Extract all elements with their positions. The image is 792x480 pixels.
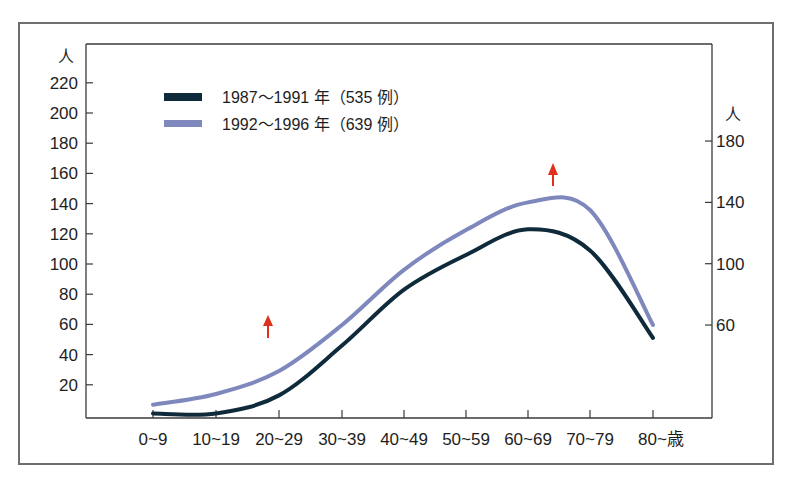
series-layer <box>153 197 653 415</box>
left-tick-label: 220 <box>50 74 78 93</box>
right-axis-unit: 人 <box>725 105 741 124</box>
x-tick-label: 0~9 <box>139 430 168 449</box>
x-tick-label: 50~59 <box>442 430 490 449</box>
right-tick-label: 100 <box>716 255 744 274</box>
arrow-up-icon <box>548 163 558 186</box>
legend-swatch-light <box>164 120 202 127</box>
left-axis-unit: 人 <box>58 47 74 66</box>
series-line-1992-1996 <box>153 197 653 404</box>
left-tick-label: 140 <box>50 195 78 214</box>
legend: 1987〜1991 年（535 例） 1992〜1996 年（639 例） <box>164 89 409 133</box>
x-tick-label: 30~39 <box>318 430 366 449</box>
left-tick-label: 200 <box>50 104 78 123</box>
legend-swatch-dark <box>164 93 202 101</box>
x-axis: 0~910~1920~2930~3940~4950~5960~6970~7980… <box>139 410 684 449</box>
left-tick-label: 20 <box>59 376 78 395</box>
x-tick-label: 40~49 <box>380 430 428 449</box>
line-chart: 人 20406080100120140160180200220 人 601001… <box>0 0 792 480</box>
right-y-axis: 人 60100140180 <box>705 105 744 335</box>
x-tick-label: 60~69 <box>504 430 552 449</box>
x-tick-label: 70~79 <box>566 430 614 449</box>
right-tick-label: 180 <box>716 132 744 151</box>
left-tick-label: 100 <box>50 255 78 274</box>
left-tick-label: 60 <box>59 315 78 334</box>
left-tick-label: 160 <box>50 164 78 183</box>
legend-label: 1987〜1991 年（535 例） <box>222 89 409 106</box>
x-tick-label: 20~29 <box>255 430 303 449</box>
arrow-up-icon <box>263 315 273 338</box>
legend-item-1987-1991: 1987〜1991 年（535 例） <box>164 89 409 106</box>
legend-item-1992-1996: 1992〜1996 年（639 例） <box>164 116 409 133</box>
x-tick-label: 10~19 <box>192 430 240 449</box>
left-tick-label: 80 <box>59 285 78 304</box>
left-tick-label: 120 <box>50 225 78 244</box>
right-tick-label: 140 <box>716 193 744 212</box>
left-tick-label: 180 <box>50 134 78 153</box>
series-line-1987-1991 <box>153 229 653 415</box>
legend-label: 1992〜1996 年（639 例） <box>222 116 409 133</box>
left-tick-label: 40 <box>59 346 78 365</box>
right-tick-label: 60 <box>716 316 735 335</box>
x-tick-label: 80~歳 <box>638 430 684 449</box>
